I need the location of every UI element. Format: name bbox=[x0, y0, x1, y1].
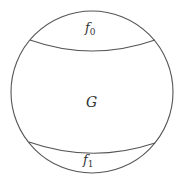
label-G: G bbox=[86, 94, 97, 110]
sphere-diagram: f0 G f1 bbox=[0, 0, 180, 180]
top-boundary-curve bbox=[30, 40, 155, 51]
label-f1: f1 bbox=[82, 152, 94, 169]
label-f0: f0 bbox=[84, 20, 96, 37]
bottom-boundary-curve bbox=[29, 142, 155, 153]
